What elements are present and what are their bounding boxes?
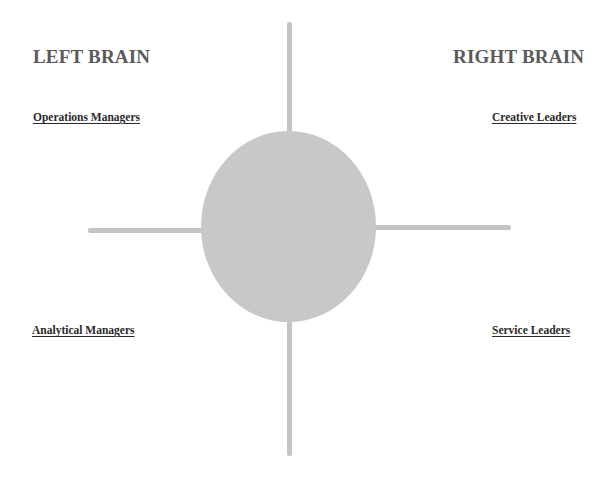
right-brain-heading: RIGHT BRAIN [453,46,584,68]
center-circle [201,131,376,322]
quadrant-label-analytical-managers: Analytical Managers [32,324,135,336]
quadrant-label-creative-leaders: Creative Leaders [492,111,576,123]
quadrant-label-operations-managers: Operations Managers [33,111,140,123]
quadrant-label-service-leaders: Service Leaders [492,324,570,336]
horizontal-axis-line-left [88,228,208,233]
horizontal-axis-line-right [370,225,511,230]
left-brain-heading: LEFT BRAIN [33,46,150,68]
